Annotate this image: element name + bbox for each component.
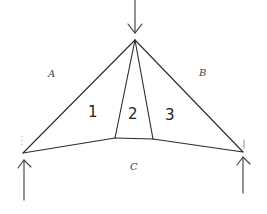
member-apex-right	[135, 40, 243, 152]
member-apex-inner-left	[115, 40, 135, 138]
right-reaction-arrow-icon	[237, 157, 250, 193]
top-load-arrow-icon	[128, 0, 142, 33]
member-label-3: 3	[165, 106, 175, 124]
left-reaction-arrow-icon	[18, 160, 31, 200]
truss-diagram: A B C 1 2 3	[0, 0, 267, 214]
member-bottom-middle	[115, 138, 153, 139]
member-label-1: 1	[88, 103, 98, 121]
region-label-a: A	[47, 68, 55, 79]
member-bottom-right	[153, 139, 243, 152]
region-label-b: B	[198, 67, 206, 78]
region-label-c: C	[130, 161, 138, 172]
member-label-2: 2	[128, 105, 138, 123]
member-apex-left	[23, 40, 135, 153]
member-apex-inner-right	[135, 40, 153, 139]
member-bottom-left	[23, 138, 115, 153]
